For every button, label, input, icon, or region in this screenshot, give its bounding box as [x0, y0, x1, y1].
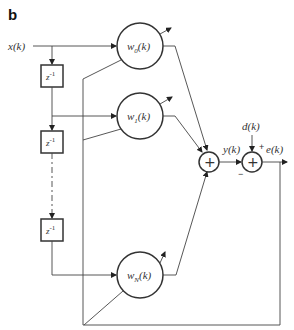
delay-3-to-wN-wire: [52, 241, 116, 275]
delay-block-3: z-1: [41, 219, 63, 241]
weight-w1: w1(k): [117, 93, 163, 139]
error-signal-label: e(k): [266, 143, 283, 156]
wN-to-sum-wire: [163, 172, 207, 275]
delay-block-1: z-1: [41, 65, 63, 87]
adaptive-filter-diagram: b x(k) z-1 z-1 z-1 w0(k) w1(k) wN(k): [0, 0, 294, 330]
svg-text:+: +: [204, 154, 216, 170]
delay-1-to-w1-wire: [52, 87, 116, 116]
svg-text:+: +: [247, 154, 259, 170]
feedback-to-wN: [84, 291, 123, 325]
weight-w0: w0(k): [117, 23, 163, 69]
input-signal-label: x(k): [7, 40, 25, 53]
panel-label: b: [8, 6, 17, 23]
feedback-to-w1: [83, 129, 121, 140]
w1-adapt-arrow: [160, 97, 172, 104]
feedback-to-w0: [83, 60, 121, 79]
w1-to-sum-wire: [163, 116, 202, 152]
output-summer: +: [199, 152, 219, 172]
minus-sign: −: [238, 169, 243, 179]
w0-adapt-arrow: [160, 28, 171, 34]
output-signal-label: y(k): [222, 143, 240, 156]
error-summer: +: [242, 152, 262, 172]
weight-wN: wN(k): [117, 252, 163, 298]
desired-signal-label: d(k): [242, 120, 260, 133]
plus-sign: +: [259, 142, 264, 152]
wN-adapt-arrow: [160, 252, 165, 263]
delay-block-2: z-1: [41, 131, 63, 153]
